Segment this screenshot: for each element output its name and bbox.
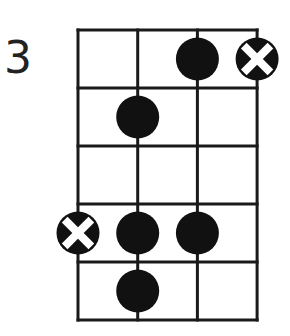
finger-dot-icon [116, 96, 159, 139]
finger-dot-icon [176, 212, 219, 255]
finger-dot-icon [116, 212, 159, 255]
muted-x-marker-icon [236, 38, 279, 81]
finger-markers [57, 38, 279, 313]
finger-dot-icon [116, 270, 159, 313]
finger-dot-icon [176, 38, 219, 81]
fretboard-diagram [0, 0, 290, 336]
fretboard-grid [78, 30, 257, 320]
muted-x-marker-icon [57, 212, 100, 255]
